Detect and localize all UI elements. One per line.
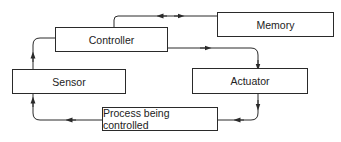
edge-sensor-controller: [33, 38, 55, 69]
process-label: Process being controlled: [103, 107, 217, 131]
actuator-box: Actuator: [192, 68, 308, 94]
edge-process-sensor: [33, 94, 102, 120]
edge-actuator-process: [218, 94, 258, 120]
actuator-label: Actuator: [230, 75, 269, 87]
controller-box: Controller: [55, 27, 168, 52]
sensor-box: Sensor: [12, 69, 126, 94]
memory-label: Memory: [257, 19, 295, 31]
sensor-label: Sensor: [52, 76, 85, 88]
edge-controller-actuator: [168, 48, 258, 67]
process-box: Process being controlled: [102, 107, 218, 131]
edge-controller-memory: [114, 16, 217, 27]
memory-box: Memory: [217, 12, 334, 37]
controller-label: Controller: [89, 34, 135, 46]
